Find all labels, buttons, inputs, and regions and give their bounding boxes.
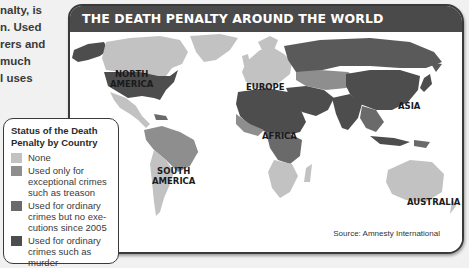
legend-item-exceptional: Used only for exceptional crimes such as… bbox=[11, 165, 112, 198]
world-map bbox=[70, 32, 462, 254]
label-asia: ASIA bbox=[398, 102, 420, 112]
label-africa: AFRICA bbox=[262, 132, 297, 142]
label-north-america: NORTH AMERICA bbox=[110, 70, 153, 89]
label-south-america: SOUTH AMERICA bbox=[152, 167, 195, 186]
legend-item-no-executions: Used for ordinary crimes but no exe- cut… bbox=[11, 200, 112, 233]
intro-paragraph-fragment: nalty, is n. Used rers and much l uses bbox=[0, 2, 70, 87]
map-legend: Status of the Death Penalty by Country N… bbox=[3, 118, 119, 264]
legend-title: Status of the Death Penalty by Country bbox=[11, 125, 112, 149]
map-title-bar: THE DEATH PENALTY AROUND THE WORLD bbox=[70, 6, 462, 32]
intro-line: l uses bbox=[0, 70, 70, 87]
intro-line: nalty, is bbox=[0, 2, 70, 19]
legend-swatch bbox=[11, 153, 22, 163]
label-europe: EUROPE bbox=[246, 83, 285, 93]
legend-item-none: None bbox=[11, 152, 112, 163]
map-title: THE DEATH PENALTY AROUND THE WORLD bbox=[82, 11, 383, 26]
world-map-figure: THE DEATH PENALTY AROUND THE WORLD bbox=[68, 4, 464, 254]
intro-line: rers and bbox=[0, 36, 70, 53]
intro-line: much bbox=[0, 53, 70, 70]
legend-swatch bbox=[11, 236, 22, 246]
legend-swatch bbox=[11, 166, 22, 176]
legend-item-ordinary: Used for ordinary crimes such as murder bbox=[11, 235, 112, 268]
map-source-credit: Source: Amnesty International bbox=[333, 229, 440, 238]
intro-line: n. Used bbox=[0, 19, 70, 36]
legend-swatch bbox=[11, 201, 22, 211]
label-australia: AUSTRALIA bbox=[407, 198, 460, 208]
